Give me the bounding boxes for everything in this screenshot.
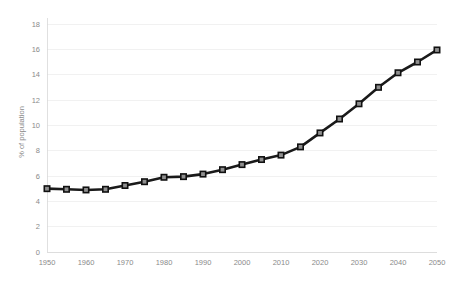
data-point-marker <box>278 152 283 157</box>
data-point-marker <box>259 157 264 162</box>
y-tick-label: 10 <box>32 121 40 130</box>
data-point-marker <box>415 59 420 64</box>
x-tick-label: 1990 <box>195 258 212 267</box>
y-tick-label: 2 <box>36 222 40 231</box>
x-tick-label: 2020 <box>312 258 329 267</box>
data-point-marker <box>44 186 49 191</box>
data-point-marker <box>181 174 186 179</box>
data-point-marker <box>356 101 361 106</box>
y-tick-label: 8 <box>36 146 40 155</box>
data-point-marker <box>376 85 381 90</box>
data-point-marker <box>64 187 69 192</box>
y-tick-label: 6 <box>36 172 40 181</box>
x-tick-label: 1960 <box>78 258 95 267</box>
y-tick-label: 16 <box>32 45 40 54</box>
x-tick-label: 1950 <box>39 258 56 267</box>
data-point-marker <box>83 187 88 192</box>
data-point-marker <box>434 47 439 52</box>
x-tick-label: 1970 <box>117 258 134 267</box>
x-tick-label: 2030 <box>351 258 368 267</box>
chart-canvas: 024681012141618 195019601970198019902000… <box>0 0 449 289</box>
y-tick-label: 12 <box>32 96 40 105</box>
y-tick-label: 18 <box>32 20 40 29</box>
x-tick-label: 1980 <box>156 258 173 267</box>
y-tick-label: 4 <box>36 197 40 206</box>
y-axis-title: % of population <box>17 106 26 158</box>
data-point-marker <box>103 187 108 192</box>
x-tick-label: 2000 <box>234 258 251 267</box>
x-tick-label: 2010 <box>273 258 290 267</box>
data-point-marker <box>239 162 244 167</box>
data-point-marker <box>317 130 322 135</box>
chart-background <box>0 0 449 289</box>
data-point-marker <box>161 175 166 180</box>
data-point-marker <box>298 144 303 149</box>
data-point-marker <box>220 167 225 172</box>
y-tick-label: 0 <box>36 248 40 257</box>
data-point-marker <box>395 70 400 75</box>
x-tick-label: 2040 <box>390 258 407 267</box>
data-point-marker <box>142 179 147 184</box>
y-tick-label: 14 <box>32 70 40 79</box>
x-tick-label: 2050 <box>429 258 446 267</box>
data-point-marker <box>200 171 205 176</box>
data-point-marker <box>122 183 127 188</box>
data-point-marker <box>337 116 342 121</box>
line-chart: 024681012141618 195019601970198019902000… <box>0 0 449 289</box>
